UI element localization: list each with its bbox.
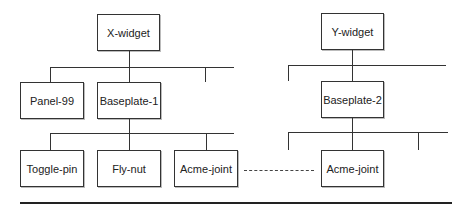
bottom-rule xyxy=(20,202,452,204)
connector xyxy=(129,67,130,82)
connector-stub xyxy=(288,65,289,81)
node-panel-99: Panel-99 xyxy=(20,82,84,119)
connector-bar xyxy=(50,67,234,68)
connector-stub xyxy=(205,67,206,82)
connector xyxy=(206,133,207,150)
connector-stub xyxy=(288,132,289,150)
node-y-widget: Y-widget xyxy=(321,13,384,50)
connector xyxy=(352,118,353,132)
connector xyxy=(352,50,353,65)
connector xyxy=(129,119,130,133)
connector-bar xyxy=(288,132,448,133)
connector xyxy=(50,133,51,150)
node-x-widget: X-widget xyxy=(97,14,160,51)
connector xyxy=(129,133,130,150)
dashed-link xyxy=(244,170,314,171)
node-toggle-pin: Toggle-pin xyxy=(20,150,84,187)
node-acme-joint-left: Acme-joint xyxy=(174,150,238,187)
node-baseplate-2: Baseplate-2 xyxy=(321,81,384,118)
connector xyxy=(352,65,353,81)
connector xyxy=(129,51,130,67)
node-baseplate-1: Baseplate-1 xyxy=(97,82,161,119)
connector xyxy=(352,132,353,150)
connector-stub xyxy=(418,132,419,150)
node-fly-nut: Fly-nut xyxy=(97,150,161,187)
connector-bar xyxy=(288,65,446,66)
connector xyxy=(50,67,51,82)
node-acme-joint-right: Acme-joint xyxy=(321,150,384,187)
